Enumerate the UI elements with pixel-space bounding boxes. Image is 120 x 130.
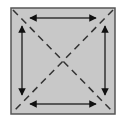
square-diagram (0, 0, 120, 130)
